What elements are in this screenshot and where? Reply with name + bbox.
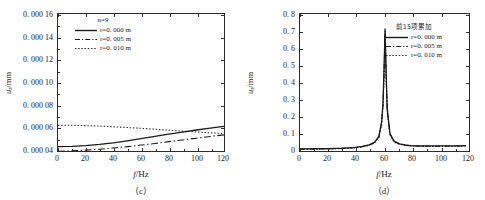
xtick-d-minor-90	[427, 149, 428, 151]
legend-label-c-2: r=0. 010 m	[100, 44, 131, 53]
line-dashdot-icon	[386, 42, 408, 51]
legend-label-d-0: r=0. 000 m	[411, 33, 442, 42]
y-axis-title-c: uz/mm	[3, 72, 13, 94]
xlabel-c-0: 0	[55, 155, 59, 163]
ytick-d-0	[300, 151, 303, 152]
xtick-d-80	[413, 148, 414, 151]
xlabel-d-6: 120	[462, 155, 474, 163]
xtick-c-100	[198, 148, 199, 151]
xlabel-d-0: 0	[297, 155, 301, 163]
x-axis-title-d: f/Hz	[376, 169, 392, 179]
legend-label-d-1: r=0. 005 m	[411, 42, 442, 51]
xtick-top-c-120	[224, 14, 225, 17]
ytick-c-0	[58, 151, 61, 152]
line-dotted-icon	[386, 51, 408, 60]
panel-c: n=9 r=0. 000 m r=0. 005 m	[0, 0, 242, 200]
ytick-c-minor-2	[58, 117, 60, 118]
xtick-c-40	[114, 148, 115, 151]
panel-d: 前15项累加 r=0. 000 m r=0. 005 m	[243, 0, 485, 200]
xtick-c-minor-50	[128, 149, 129, 151]
xlabel-c-1: 20	[81, 155, 89, 163]
xtick-d-minor-30	[342, 149, 343, 151]
xlabel-c-6: 120	[217, 155, 229, 163]
xlabel-d-3: 60	[380, 155, 388, 163]
xtick-top-d-40	[356, 14, 357, 17]
ytick-right-d-7	[466, 32, 469, 33]
curve-c-r0005	[58, 135, 224, 151]
xtick-top-c-100	[198, 14, 199, 17]
ytick-right-d-5	[466, 66, 469, 67]
ytick-d-3	[300, 100, 303, 101]
panel-caption-d: （d）	[373, 184, 396, 197]
ylabel-d-5: 0. 5	[243, 62, 295, 70]
line-dotted-icon	[75, 44, 97, 53]
ytick-c-minor-3	[58, 94, 60, 95]
xlabel-d-5: 100	[435, 155, 447, 163]
ylabel-d-6: 0. 6	[243, 45, 295, 53]
xlabel-c-5: 100	[191, 155, 203, 163]
xtick-d-60	[385, 148, 386, 151]
xtick-d-minor-10	[314, 149, 315, 151]
legend-row-d-0: r=0. 000 m	[386, 33, 442, 42]
line-solid-icon	[386, 33, 408, 42]
legend-row-c-1: r=0. 005 m	[75, 35, 131, 44]
ylabel-c-4: 0. 000 12	[0, 56, 53, 64]
xtick-top-c-60	[142, 14, 143, 17]
xlabel-d-4: 80	[408, 155, 416, 163]
ytick-right-c-0	[221, 151, 224, 152]
plot-area-d: 前15项累加 r=0. 000 m r=0. 005 m	[299, 13, 470, 152]
ytick-right-d-3	[466, 100, 469, 101]
ytick-c-minor-4	[58, 72, 60, 73]
ytick-d-1	[300, 134, 303, 135]
line-dashdot-icon	[75, 35, 97, 44]
legend-label-c-0: r=0. 000 m	[100, 26, 131, 35]
ytick-d-8	[300, 15, 303, 16]
ytick-right-d-6	[466, 49, 469, 50]
xlabel-c-4: 80	[165, 155, 173, 163]
panel-caption-c: （c）	[130, 184, 152, 197]
ytick-d-2	[300, 117, 303, 118]
ytick-c-3	[58, 83, 61, 84]
xtick-c-minor-70	[156, 149, 157, 151]
ytick-d-7	[300, 32, 303, 33]
xlabel-d-1: 20	[323, 155, 331, 163]
xtick-c-80	[170, 148, 171, 151]
y-axis-title-d: uz/mm	[245, 72, 255, 94]
xtick-c-minor-30	[100, 149, 101, 151]
xtick-top-d-20	[328, 14, 329, 17]
xtick-top-d-60	[385, 14, 386, 17]
legend-label-d-2: r=0. 010 m	[411, 51, 442, 60]
ytick-c-2	[58, 106, 61, 107]
plot-area-c: n=9 r=0. 000 m r=0. 005 m	[57, 13, 225, 152]
ylabel-c-2: 0. 000 08	[0, 102, 53, 110]
xtick-c-minor-10	[72, 149, 73, 151]
ytick-right-d-1	[466, 134, 469, 135]
curves-d	[300, 14, 469, 151]
ytick-d-5	[300, 66, 303, 67]
figure-sheet: n=9 r=0. 000 m r=0. 005 m	[0, 0, 485, 200]
ytick-right-d-4	[466, 83, 469, 84]
ytick-right-d-8	[466, 15, 469, 16]
xtick-d-40	[356, 148, 357, 151]
ylabel-d-1: 0. 1	[243, 130, 295, 138]
ytick-right-c-3	[221, 83, 224, 84]
ytick-right-c-5	[221, 38, 224, 39]
ylabel-c-1: 0. 000 06	[0, 124, 53, 132]
legend-row-d-1: r=0. 005 m	[386, 42, 442, 51]
line-solid-icon	[75, 26, 97, 35]
xlabel-c-2: 40	[109, 155, 117, 163]
ylabel-d-0: 0	[243, 147, 295, 155]
ytick-c-minor-1	[58, 140, 60, 141]
ylabel-d-2: 0. 2	[243, 113, 295, 121]
ytick-c-minor-5	[58, 49, 60, 50]
xlabel-c-3: 60	[137, 155, 145, 163]
xtick-c-120	[224, 148, 225, 151]
ylabel-c-6: 0. 000 16	[0, 11, 53, 19]
legend-row-c-0: r=0. 000 m	[75, 26, 131, 35]
ylabel-d-7: 0. 7	[243, 28, 295, 36]
legend-title-d: 前15项累加	[386, 23, 442, 32]
ytick-c-minor-6	[58, 26, 60, 27]
xtick-c-minor-110	[212, 149, 213, 151]
ytick-c-5	[58, 38, 61, 39]
xtick-d-120	[469, 148, 470, 151]
